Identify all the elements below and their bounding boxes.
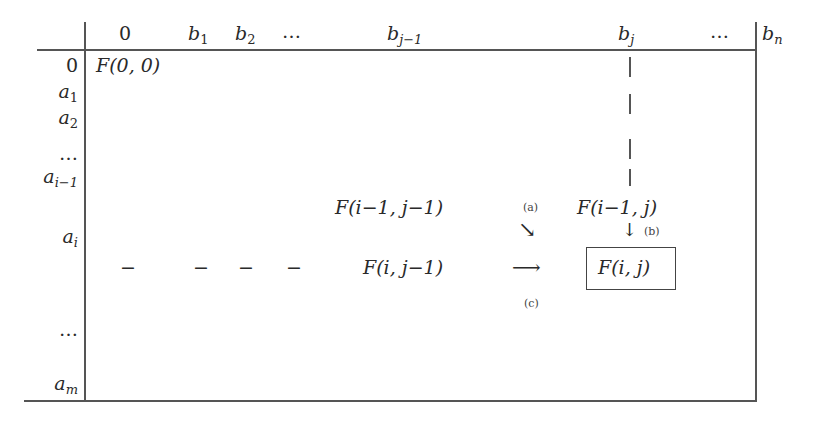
row-header-ai: ai — [63, 225, 79, 254]
row-header-am: am — [54, 372, 78, 401]
col-header-bj-1: bj−1 — [387, 22, 422, 51]
dash-cell-2: − — [193, 256, 209, 278]
column-dash-2 — [629, 94, 631, 114]
left-rule — [84, 22, 86, 402]
down-arrow-icon: ↓ — [622, 219, 637, 241]
row-header-a2: a2 — [58, 106, 78, 135]
column-dash-3 — [629, 139, 631, 159]
col-header-b2: b2 — [235, 22, 255, 51]
col-header-b1: b1 — [188, 22, 208, 51]
arrow-label-c: (c) — [524, 297, 539, 310]
right-rule — [755, 22, 757, 402]
cell-f00: F(0, 0) — [96, 54, 160, 76]
col-header-ellipsis-1: … — [282, 20, 301, 42]
cell-f-i-j: F(i, j) — [598, 256, 650, 278]
dash-cell-3: − — [238, 256, 254, 278]
cell-f-i-jm1: F(i, j−1) — [363, 256, 443, 278]
bottom-rule — [24, 400, 757, 402]
arrow-label-b: (b) — [644, 225, 660, 238]
right-arrow-icon: ⟶ — [512, 256, 541, 278]
row-header-a1: a1 — [58, 80, 78, 109]
row-header-ai-1: ai−1 — [43, 165, 78, 194]
col-header-0: 0 — [119, 22, 131, 44]
col-header-ellipsis-2: … — [710, 20, 729, 42]
row-header-0: 0 — [66, 54, 78, 76]
col-header-bj: bj — [618, 22, 634, 51]
column-dash-1 — [629, 57, 631, 77]
col-header-bn: bn — [762, 22, 783, 51]
cell-f-im1-jm1: F(i−1, j−1) — [335, 196, 443, 218]
diagonal-arrow-icon: ↘ — [518, 219, 536, 241]
column-dash-4 — [629, 169, 631, 186]
dash-cell-1: − — [120, 256, 136, 278]
arrow-label-a: (a) — [523, 201, 538, 214]
cell-f-im1-j: F(i−1, j) — [577, 196, 657, 218]
row-header-ellipsis-1: … — [59, 142, 78, 164]
row-header-ellipsis-2: … — [59, 318, 78, 340]
dash-cell-4: − — [286, 256, 302, 278]
